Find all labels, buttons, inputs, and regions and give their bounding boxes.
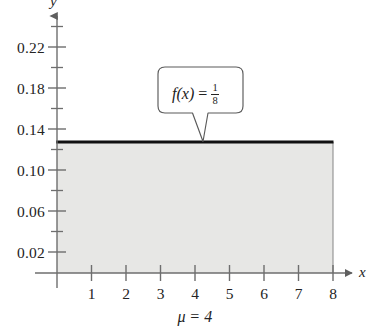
y-tick-label-0.02: 0.02 — [0, 245, 45, 261]
callout-equals: = — [198, 85, 207, 103]
x-tick-label-3: 3 — [149, 286, 173, 302]
y-axis-label: y — [50, 0, 57, 9]
x-tick-label-5: 5 — [218, 286, 242, 302]
y-tick-label-0.22: 0.22 — [0, 40, 45, 56]
x-tick-label-7: 7 — [287, 286, 311, 302]
x-tick-label-4: 4 — [183, 286, 207, 302]
fraction-numerator: 1 — [212, 82, 219, 94]
cut-off-caption: Uniform Distribution — [0, 327, 382, 336]
x-tick-label-1: 1 — [80, 286, 104, 302]
y-tick-label-0.06: 0.06 — [0, 204, 45, 220]
y-tick-label-0.18: 0.18 — [0, 81, 45, 97]
fraction-denominator: 8 — [212, 95, 219, 107]
mean-value: 4 — [204, 308, 212, 325]
x-axis-label: x — [359, 265, 366, 280]
density-callout-text: f(x) = 1 8 — [172, 82, 219, 106]
x-tick-label-2: 2 — [114, 286, 138, 302]
uniform-distribution-figure: 0.22 0.18 0.14 0.10 0.06 0.02 1 2 3 4 5 … — [0, 0, 382, 336]
caption-ghost-text: Uniform Distribution — [8, 327, 146, 331]
x-tick-label-6: 6 — [252, 286, 276, 302]
callout-function: f(x) — [172, 85, 194, 103]
density-shaded-region — [57, 142, 333, 273]
mean-label: μ = 4 — [150, 309, 240, 325]
mu-symbol: μ — [177, 308, 185, 325]
y-tick-label-0.14: 0.14 — [0, 122, 45, 138]
callout-fraction: 1 8 — [211, 82, 219, 106]
mean-equals: = — [190, 308, 199, 325]
x-tick-label-8: 8 — [321, 286, 345, 302]
y-tick-label-0.10: 0.10 — [0, 163, 45, 179]
